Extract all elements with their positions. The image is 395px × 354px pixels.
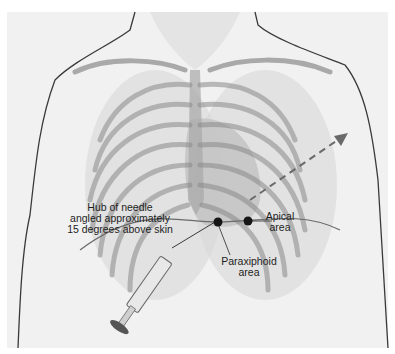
apical-area-label: Apicalarea: [255, 211, 305, 233]
paraxiphoid-area-label: Paraxiphoidarea: [214, 256, 284, 278]
figure-canvas: Hub of needleangled approximately15 degr…: [0, 0, 395, 354]
right-clavicle: [75, 61, 185, 72]
paraxiphoid-site-marker: [214, 218, 223, 227]
needle-hub-label: Hub of needleangled approximately15 degr…: [58, 202, 182, 235]
apical-site-marker: [244, 217, 253, 226]
chest-illustration: [0, 0, 395, 354]
arrow-head-icon: [334, 133, 348, 146]
left-clavicle: [210, 60, 330, 72]
